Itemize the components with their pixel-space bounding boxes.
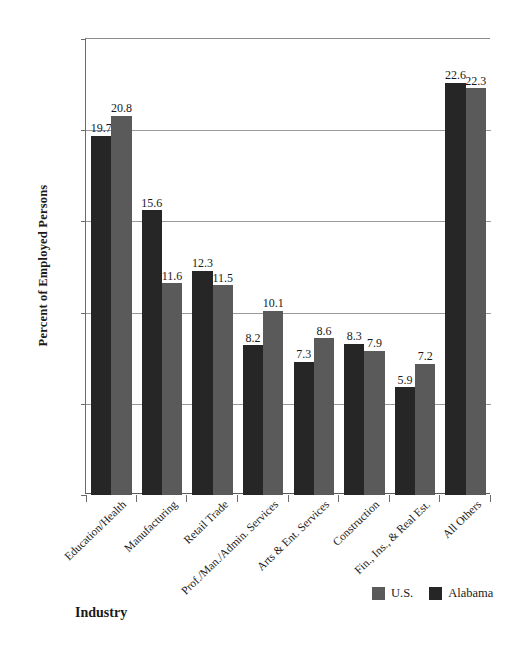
bar-us[interactable]: 7.9 xyxy=(364,351,384,495)
legend-item[interactable]: U.S. xyxy=(372,586,413,601)
legend: U.S.Alabama xyxy=(372,586,493,601)
x-axis-category-label: Education/Health xyxy=(62,498,128,563)
bar-value-label: 15.6 xyxy=(141,197,162,211)
bar-us[interactable]: 8.6 xyxy=(314,338,334,495)
bar-pair: 15.611.6 xyxy=(137,39,188,495)
bar-pair: 12.311.5 xyxy=(187,39,238,495)
bar-value-label: 22.6 xyxy=(445,69,466,83)
bar-value-label: 22.3 xyxy=(465,75,486,89)
bar-us[interactable]: 11.6 xyxy=(162,283,182,495)
x-axis-category-label: Prof./Man./Admin. Services xyxy=(179,498,281,597)
legend-swatch-icon xyxy=(372,587,385,600)
bar-group: 5.97.2 xyxy=(390,39,441,495)
bar-group: 7.38.6 xyxy=(289,39,340,495)
bar-alabama[interactable]: 5.9 xyxy=(395,387,415,495)
x-axis-category-label: Retail Trade xyxy=(181,498,230,546)
bar-group: 22.622.3 xyxy=(440,39,491,495)
bar-group: 8.210.1 xyxy=(238,39,289,495)
x-axis-title: Industry xyxy=(75,605,127,621)
bar-value-label: 7.3 xyxy=(296,348,311,362)
bar-group: 19.720.8 xyxy=(86,39,137,495)
legend-item[interactable]: Alabama xyxy=(429,586,493,601)
x-axis-tick-mark xyxy=(136,495,137,502)
bar-pair: 19.720.8 xyxy=(86,39,137,495)
bar-us[interactable]: 10.1 xyxy=(263,311,283,495)
bar-value-label: 20.8 xyxy=(111,102,132,116)
x-axis-tick-mark xyxy=(490,495,491,502)
bar-pair: 7.38.6 xyxy=(289,39,340,495)
x-axis-tick-mark xyxy=(237,495,238,502)
bar-alabama[interactable]: 8.3 xyxy=(344,344,364,495)
bar-alabama[interactable]: 22.6 xyxy=(445,83,465,495)
x-axis-tick-mark xyxy=(186,495,187,502)
bar-alabama[interactable]: 19.7 xyxy=(91,136,111,495)
bar-pair: 5.97.2 xyxy=(390,39,441,495)
bar-value-label: 19.7 xyxy=(91,122,112,136)
bar-value-label: 5.9 xyxy=(397,374,412,388)
plot-area: 19.720.815.611.612.311.58.210.17.38.68.3… xyxy=(85,38,490,494)
x-axis-category-label: All Others xyxy=(440,498,483,540)
bar-groups: 19.720.815.611.612.311.58.210.17.38.68.3… xyxy=(86,39,491,495)
x-axis-tick-mark xyxy=(439,495,440,502)
x-axis-category-label: Construction xyxy=(331,498,382,548)
legend-label: Alabama xyxy=(448,586,493,601)
bar-pair: 22.622.3 xyxy=(440,39,491,495)
bar-group: 12.311.5 xyxy=(187,39,238,495)
bar-alabama[interactable]: 8.2 xyxy=(243,345,263,495)
x-axis-tick-mark xyxy=(338,495,339,502)
bar-value-label: 11.5 xyxy=(212,272,233,286)
bar-group: 8.37.9 xyxy=(339,39,390,495)
bar-group: 15.611.6 xyxy=(137,39,188,495)
x-axis-category-label: Manufacturing xyxy=(122,498,179,554)
bar-value-label: 7.2 xyxy=(418,350,433,364)
bar-value-label: 7.9 xyxy=(367,337,382,351)
bar-value-label: 8.3 xyxy=(347,330,362,344)
x-axis-tick-mark xyxy=(389,495,390,502)
bar-pair: 8.37.9 xyxy=(339,39,390,495)
bar-alabama[interactable]: 7.3 xyxy=(294,362,314,495)
bar-value-label: 11.6 xyxy=(162,270,183,284)
bar-us[interactable]: 22.3 xyxy=(466,88,486,495)
legend-label: U.S. xyxy=(391,586,413,601)
bar-value-label: 8.2 xyxy=(246,332,261,346)
bar-us[interactable]: 20.8 xyxy=(111,116,131,495)
bar-alabama[interactable]: 15.6 xyxy=(142,210,162,495)
bar-pair: 8.210.1 xyxy=(238,39,289,495)
bar-chart: Percent of Employed Persons Industry 19.… xyxy=(0,0,525,650)
bar-us[interactable]: 7.2 xyxy=(415,364,435,495)
legend-swatch-icon xyxy=(429,587,442,600)
bar-value-label: 8.6 xyxy=(316,325,331,339)
bar-value-label: 12.3 xyxy=(192,257,213,271)
x-axis-tick-mark xyxy=(288,495,289,502)
bar-value-label: 10.1 xyxy=(263,297,284,311)
bar-us[interactable]: 11.5 xyxy=(213,285,233,495)
x-axis-tick-mark xyxy=(86,495,87,502)
y-axis-title: Percent of Employed Persons xyxy=(36,146,51,386)
bar-alabama[interactable]: 12.3 xyxy=(192,271,212,495)
